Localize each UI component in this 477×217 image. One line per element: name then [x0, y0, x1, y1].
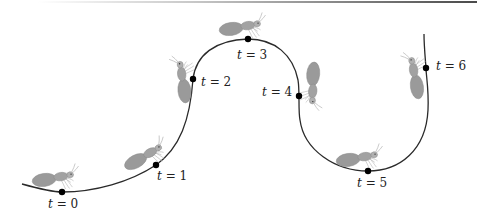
- ant-icon: [298, 61, 326, 111]
- ant-icon: [335, 143, 386, 173]
- time-label: t = 1: [157, 169, 187, 183]
- time-label: t = 5: [357, 176, 387, 190]
- time-label: t = 3: [237, 48, 267, 62]
- ant-icon: [218, 12, 269, 42]
- time-label: t = 4: [262, 85, 293, 99]
- time-label: t = 6: [436, 59, 466, 73]
- time-point-marker: [296, 93, 302, 99]
- ant-figures: [31, 12, 431, 193]
- ant-path-figure: t = 0t = 1t = 2t = 3t = 4t = 5t = 6: [0, 0, 477, 217]
- time-point-marker: [59, 189, 65, 195]
- time-point-marker: [365, 168, 371, 174]
- time-point-marker: [245, 36, 251, 42]
- time-label: t = 0: [48, 197, 78, 211]
- time-point-marker: [190, 76, 196, 82]
- time-label: t = 2: [201, 75, 231, 89]
- ant-icon: [31, 163, 82, 193]
- top-rule: [38, 1, 477, 3]
- time-labels: t = 0t = 1t = 2t = 3t = 4t = 5t = 6: [48, 48, 466, 211]
- time-point-marker: [153, 162, 159, 168]
- time-point-marker: [423, 65, 429, 71]
